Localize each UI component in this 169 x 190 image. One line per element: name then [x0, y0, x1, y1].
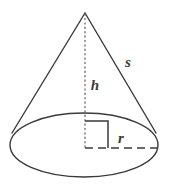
height-label: h — [91, 77, 99, 93]
cone-figure: s h r — [0, 0, 169, 190]
slant-height-label: s — [124, 54, 131, 70]
right-angle-marker-icon — [85, 121, 108, 148]
cone-diagram-canvas: s h r — [0, 0, 169, 190]
cone-base-ellipse — [10, 113, 158, 177]
cone-left-side-line — [12, 13, 85, 133]
radius-label: r — [118, 130, 124, 146]
cone-right-side-line — [85, 13, 156, 133]
